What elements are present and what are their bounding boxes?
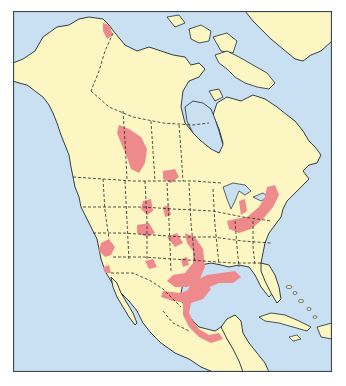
north-america-map bbox=[13, 11, 332, 372]
map-frame bbox=[13, 11, 332, 372]
